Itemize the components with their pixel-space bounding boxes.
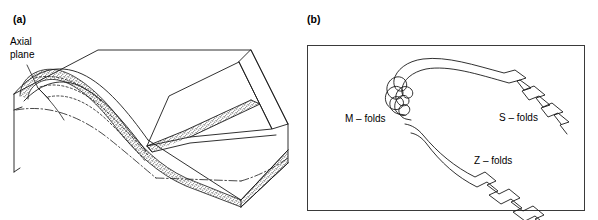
inner-layer-trace	[395, 68, 569, 220]
marker-bed-stipple	[20, 69, 288, 207]
m-folds-label: M – folds	[345, 113, 386, 124]
s-folds-label: S – folds	[499, 112, 538, 123]
panel-b-border	[308, 46, 585, 211]
panel-b: (b) M – folds S – folds	[299, 0, 598, 220]
raised-ridge-layer	[147, 50, 288, 152]
z-folds-label: Z – folds	[474, 155, 512, 166]
panel-a: (a) Axial plane	[0, 0, 299, 220]
figure-root: (a) Axial plane	[0, 0, 598, 220]
block-left-face	[14, 94, 22, 172]
outer-layer-trace	[385, 58, 563, 220]
fold-profile-art: M – folds S – folds Z – folds	[299, 0, 598, 220]
block-diagram-art	[0, 0, 299, 220]
